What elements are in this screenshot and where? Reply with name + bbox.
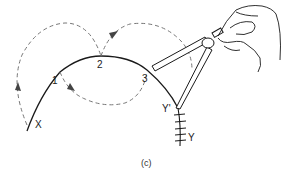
label-step-2: 2 — [97, 60, 103, 70]
dashed-loop-2-to-3 — [101, 23, 192, 70]
dividers-icon — [152, 28, 223, 109]
figure-caption: (c) — [141, 158, 152, 168]
label-y-prime: Y' — [162, 104, 171, 114]
dividers-stepping-diagram: X 1 2 3 Y' Y (c) — [0, 0, 294, 177]
arrow-icon — [15, 82, 21, 91]
diagram-canvas — [0, 0, 294, 177]
label-y: Y — [188, 133, 195, 143]
hand-icon — [218, 6, 281, 73]
label-step-1: 1 — [52, 76, 58, 86]
arrow-icon — [109, 31, 118, 39]
arrow-icon — [67, 83, 75, 91]
label-x: X — [35, 120, 42, 130]
label-step-3: 3 — [142, 74, 148, 84]
